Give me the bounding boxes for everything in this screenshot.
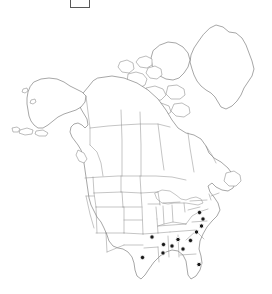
bering-islet-1	[22, 88, 28, 93]
occurrence-dot	[161, 242, 165, 246]
alaska-outline	[27, 78, 86, 128]
distribution-map-figure	[0, 0, 272, 294]
arctic-island-10	[136, 56, 152, 68]
occurrence-dot	[181, 247, 185, 251]
newfoundland-outline	[224, 171, 241, 186]
occurrence-dot	[150, 235, 154, 239]
occurrence-dot	[176, 237, 180, 241]
occurrence-dot	[201, 217, 205, 221]
occurrence-dot	[140, 255, 144, 259]
occurrence-dot	[197, 262, 201, 266]
arctic-island-8	[171, 103, 190, 117]
arctic-island-9	[118, 60, 134, 73]
arctic-island-5	[166, 85, 185, 99]
occurrence-dot	[161, 251, 165, 255]
occurrence-dot	[188, 238, 192, 242]
aleutian-island-2	[35, 130, 48, 136]
occurrence-dot	[197, 210, 201, 214]
greenland-outline	[190, 25, 254, 109]
state-border-az-nm	[106, 233, 107, 252]
aleutian-island-1	[19, 128, 33, 135]
occurrence-dot	[194, 230, 198, 234]
occurrence-dot	[199, 224, 203, 228]
aleutian-island-3	[12, 127, 20, 132]
occurrence-dot	[170, 244, 174, 248]
north-america-map	[0, 0, 272, 294]
